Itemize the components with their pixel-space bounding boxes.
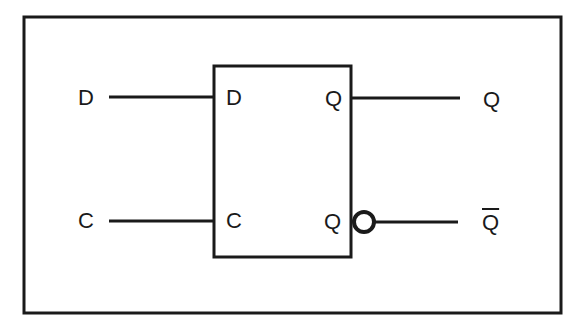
outer-frame: [24, 17, 561, 313]
qbar-external-label: Q: [482, 212, 499, 234]
diagram-canvas: [0, 0, 579, 322]
q-pin-label: Q: [325, 88, 342, 110]
c-pin-label: C: [226, 210, 242, 232]
q-external-label: Q: [483, 89, 500, 111]
inversion-bubble: [354, 212, 374, 232]
c-external-label: C: [78, 210, 94, 232]
qn-pin-label: Q: [324, 211, 341, 233]
d-pin-label: D: [226, 87, 242, 109]
d-external-label: D: [78, 87, 94, 109]
